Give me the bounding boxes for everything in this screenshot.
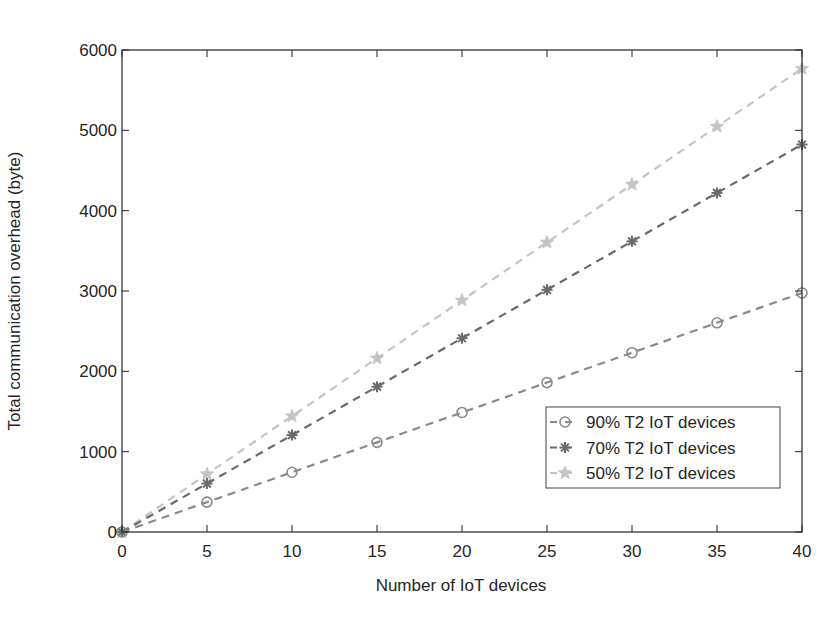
x-tick-label: 0 <box>117 542 126 561</box>
x-axis-label: Number of IoT devices <box>376 576 547 595</box>
asterisk-marker-icon <box>372 381 383 392</box>
x-tick-label: 15 <box>368 542 387 561</box>
star-marker-icon <box>625 177 638 190</box>
legend-label: 50% T2 IoT devices <box>586 464 736 483</box>
asterisk-marker-icon <box>542 284 553 295</box>
asterisk-marker-icon <box>287 430 298 441</box>
y-tick-label: 4000 <box>79 202 117 221</box>
x-tick-label: 5 <box>202 542 211 561</box>
x-tick-label: 35 <box>708 542 727 561</box>
y-tick-label: 2000 <box>79 362 117 381</box>
y-tick-label: 1000 <box>79 443 117 462</box>
x-tick-label: 10 <box>283 542 302 561</box>
asterisk-marker-icon <box>560 442 571 453</box>
legend: 90% T2 IoT devices70% T2 IoT devices50% … <box>546 407 780 488</box>
circle-marker-icon <box>627 348 637 358</box>
circle-marker-icon <box>287 467 297 477</box>
circle-marker-icon <box>457 407 467 417</box>
x-tick-label: 20 <box>453 542 472 561</box>
x-tick-label: 40 <box>793 542 812 561</box>
star-marker-icon <box>200 467 213 480</box>
star-marker-icon <box>455 293 468 306</box>
asterisk-marker-icon <box>627 236 638 247</box>
legend-label: 70% T2 IoT devices <box>586 439 736 458</box>
asterisk-marker-icon <box>202 478 213 489</box>
line-chart: 0510152025303540010002000300040005000600… <box>0 0 838 622</box>
y-tick-label: 0 <box>108 523 117 542</box>
star-marker-icon <box>370 351 383 364</box>
x-tick-label: 25 <box>538 542 557 561</box>
asterisk-marker-icon <box>457 333 468 344</box>
y-tick-label: 3000 <box>79 282 117 301</box>
legend-label: 90% T2 IoT devices <box>586 413 736 432</box>
y-axis-label: Total communication overhead (byte) <box>5 152 24 431</box>
y-tick-label: 5000 <box>79 121 117 140</box>
y-tick-label: 6000 <box>79 41 117 60</box>
x-tick-label: 30 <box>623 542 642 561</box>
chart-canvas: 0510152025303540010002000300040005000600… <box>0 0 838 622</box>
asterisk-marker-icon <box>712 187 723 198</box>
